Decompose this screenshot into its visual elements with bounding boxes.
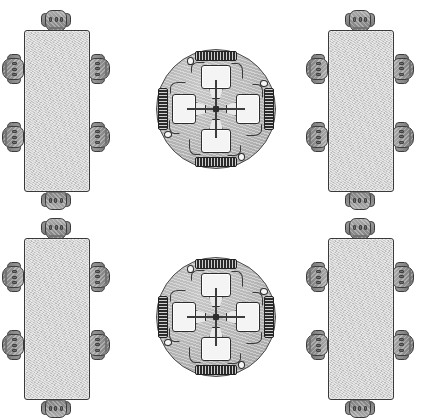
chair[interactable] <box>88 54 110 84</box>
chair-seat-edge <box>353 27 367 29</box>
chair-seat-edge <box>5 270 7 284</box>
mouse-icon[interactable] <box>164 131 172 138</box>
chair-back-detail <box>95 62 100 76</box>
chair-seat-edge <box>309 270 311 284</box>
chair[interactable] <box>392 54 414 84</box>
chair[interactable] <box>392 330 414 360</box>
rectangular-table-top[interactable] <box>328 30 394 192</box>
chair-back-detail <box>49 406 63 411</box>
keyboard-icon[interactable] <box>158 296 168 338</box>
rectangular-table-top[interactable] <box>24 238 90 400</box>
monitor-cable <box>231 271 243 287</box>
keyboard-icon[interactable] <box>195 51 237 61</box>
chair-back-detail <box>49 17 63 22</box>
chair[interactable] <box>2 330 24 360</box>
chair-seat-edge <box>409 270 411 284</box>
chair-seat-edge <box>105 62 107 76</box>
chair-seat-edge <box>5 130 7 144</box>
chair[interactable] <box>88 122 110 152</box>
keyboard-icon[interactable] <box>158 88 168 130</box>
keyboard-icon[interactable] <box>195 365 237 375</box>
chair-back-detail <box>399 130 404 144</box>
chair-back-detail <box>12 62 17 76</box>
chair[interactable] <box>306 330 328 360</box>
chair-seat-edge <box>309 338 311 352</box>
keyboard-icon[interactable] <box>264 296 274 338</box>
chair-seat-edge <box>5 338 7 352</box>
mouse-icon[interactable] <box>187 57 194 65</box>
chair-back-detail <box>316 62 321 76</box>
chair[interactable] <box>306 54 328 84</box>
chair-seat-edge <box>105 338 107 352</box>
chair-back-detail <box>399 338 404 352</box>
conference-table-group <box>306 14 414 206</box>
chair[interactable] <box>345 218 375 240</box>
chair[interactable] <box>2 122 24 152</box>
chair-back-detail <box>353 17 367 22</box>
keyboard-icon[interactable] <box>195 259 237 269</box>
chair-seat-edge <box>105 130 107 144</box>
conference-table-group <box>306 222 414 414</box>
chair-back-detail <box>95 270 100 284</box>
chair-seat-edge <box>409 62 411 76</box>
chair[interactable] <box>345 10 375 32</box>
conference-table-group <box>2 222 110 414</box>
cable-hub <box>213 314 219 320</box>
chair-back-detail <box>316 270 321 284</box>
chair-back-detail <box>12 338 17 352</box>
chair-back-detail <box>12 270 17 284</box>
chair-back-detail <box>95 130 100 144</box>
monitor-cable <box>231 63 243 79</box>
mouse-icon[interactable] <box>238 153 245 161</box>
chair-seat-edge <box>309 62 311 76</box>
mouse-icon[interactable] <box>260 288 268 295</box>
chair[interactable] <box>306 122 328 152</box>
chair[interactable] <box>2 262 24 292</box>
cable-hub <box>213 106 219 112</box>
mouse-icon[interactable] <box>260 80 268 87</box>
chair[interactable] <box>392 262 414 292</box>
chair-seat-edge <box>49 235 63 237</box>
rectangular-table-top[interactable] <box>328 238 394 400</box>
workstation-table-group <box>151 252 281 382</box>
chair[interactable] <box>88 262 110 292</box>
chair[interactable] <box>306 262 328 292</box>
chair-seat-edge <box>49 27 63 29</box>
chair[interactable] <box>41 10 71 32</box>
chair-back-detail <box>399 62 404 76</box>
mouse-icon[interactable] <box>187 265 194 273</box>
chair-seat-edge <box>5 62 7 76</box>
monitor-cable <box>170 290 186 302</box>
keyboard-icon[interactable] <box>264 88 274 130</box>
monitor-cable <box>246 124 262 136</box>
chair-back-detail <box>12 130 17 144</box>
chair-seat-edge <box>409 338 411 352</box>
workstation-table-group <box>151 44 281 174</box>
monitor-cable <box>189 139 201 155</box>
chair-back-detail <box>316 338 321 352</box>
chair-back-detail <box>49 198 63 203</box>
chair-seat-edge <box>105 270 107 284</box>
monitor-cable <box>189 347 201 363</box>
chair-back-detail <box>399 270 404 284</box>
mouse-icon[interactable] <box>238 361 245 369</box>
chair-back-detail <box>316 130 321 144</box>
chair[interactable] <box>392 122 414 152</box>
chair-seat-edge <box>353 235 367 237</box>
chair-back-detail <box>95 338 100 352</box>
chair[interactable] <box>88 330 110 360</box>
chair-back-detail <box>353 406 367 411</box>
conference-table-group <box>2 14 110 206</box>
chair[interactable] <box>41 218 71 240</box>
rectangular-table-top[interactable] <box>24 30 90 192</box>
chair[interactable] <box>2 54 24 84</box>
chair-back-detail <box>353 198 367 203</box>
monitor-cable <box>246 332 262 344</box>
keyboard-icon[interactable] <box>195 157 237 167</box>
chair-seat-edge <box>409 130 411 144</box>
mouse-icon[interactable] <box>164 339 172 346</box>
chair-back-detail <box>353 225 367 230</box>
monitor-cable <box>170 82 186 94</box>
chair-back-detail <box>49 225 63 230</box>
